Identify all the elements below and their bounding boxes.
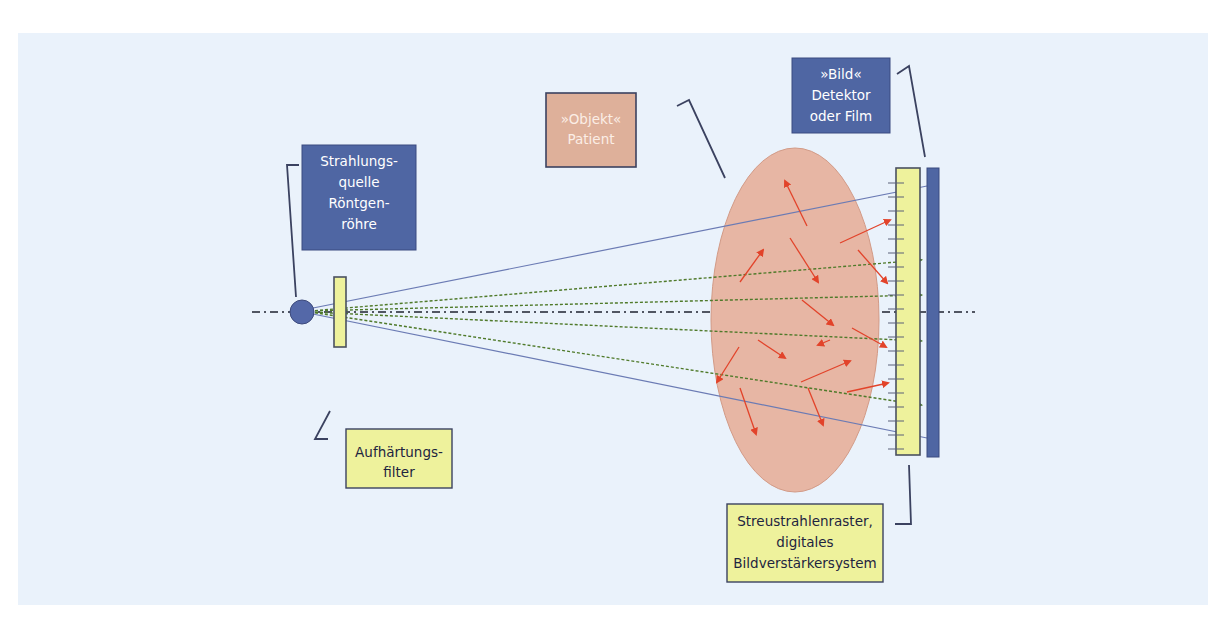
grid-label-line-2: digitales <box>776 534 833 550</box>
detector-label-line-2: Detektor <box>811 87 871 103</box>
patient-object <box>711 148 879 492</box>
filter-label-line-1: Aufhärtungs- <box>355 444 443 460</box>
filter-label-line-2: filter <box>383 464 415 480</box>
object-label-line-2: Patient <box>567 131 614 147</box>
grid-label-line-1: Streustrahlenraster, <box>737 513 873 529</box>
detector-label-line-3: oder Film <box>810 108 872 124</box>
source-label-line-3: Röntgen- <box>328 195 389 211</box>
grid-label-line-3: Bildverstärkersystem <box>733 555 876 571</box>
hardening-filter-bar <box>334 277 346 347</box>
object-label-line-1: »Objekt« <box>561 111 622 127</box>
xray-imaging-diagram: Strahlungs- quelle Röntgen- röhre Aufhär… <box>0 0 1228 620</box>
object-label: »Objekt« Patient <box>546 93 636 167</box>
detector-label-line-1: »Bild« <box>820 66 861 82</box>
source-label-line-2: quelle <box>338 174 379 190</box>
source-label: Strahlungs- quelle Röntgen- röhre <box>302 145 416 250</box>
source-label-line-1: Strahlungs- <box>320 153 398 169</box>
grid-label: Streustrahlenraster, digitales Bildverst… <box>727 504 883 582</box>
source-label-line-4: röhre <box>341 216 377 232</box>
filter-label: Aufhärtungs- filter <box>346 429 452 488</box>
image-detector-bar <box>927 168 939 457</box>
detector-label: »Bild« Detektor oder Film <box>792 58 890 133</box>
xray-source-circle <box>290 300 314 324</box>
